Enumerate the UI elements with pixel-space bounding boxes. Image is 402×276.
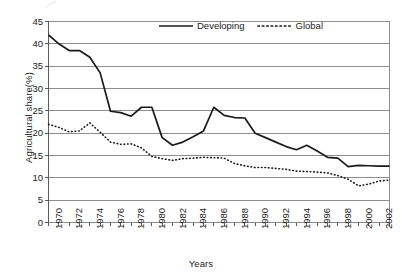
legend-item-global: Global [257, 21, 323, 31]
y-tick-label: 45 [21, 16, 43, 27]
x-tick-label: 1998 [342, 207, 353, 228]
x-tick-label: 1972 [73, 207, 84, 228]
chart-legend: Developing Global [158, 21, 323, 31]
x-tick-label: 1990 [259, 207, 270, 228]
x-tick-label: 1986 [218, 207, 229, 228]
x-tick-label: 1992 [280, 207, 291, 228]
x-axis-title: Years [0, 258, 402, 269]
y-tick-label: 0 [21, 217, 43, 228]
x-tick-label: 2000 [363, 207, 374, 228]
x-tick-label: 1994 [301, 207, 312, 228]
x-tick-label: 2002 [383, 207, 394, 228]
x-tick-label: 1982 [177, 207, 188, 228]
chart-plot-area [0, 0, 402, 276]
x-tick-label: 1974 [94, 207, 105, 228]
legend-item-developing: Developing [158, 21, 245, 31]
y-axis-title: Agricultural share(%) [23, 38, 34, 198]
series-line-global [49, 123, 390, 186]
x-tick-label: 1980 [156, 207, 167, 228]
x-tick-label: 1996 [321, 207, 332, 228]
legend-swatch-solid-icon [158, 21, 194, 31]
series-line-developing [49, 35, 390, 167]
legend-label-global: Global [296, 21, 323, 31]
x-tick-label: 1970 [53, 207, 64, 228]
x-tick-label: 1988 [239, 207, 250, 228]
chart-figure: 051015202530354045 197019721974197619781… [0, 0, 402, 276]
x-tick-label: 1976 [115, 207, 126, 228]
x-tick-label: 1984 [197, 207, 208, 228]
x-tick-label: 1978 [135, 207, 146, 228]
legend-swatch-dotted-icon [257, 21, 293, 31]
legend-label-developing: Developing [197, 21, 245, 31]
